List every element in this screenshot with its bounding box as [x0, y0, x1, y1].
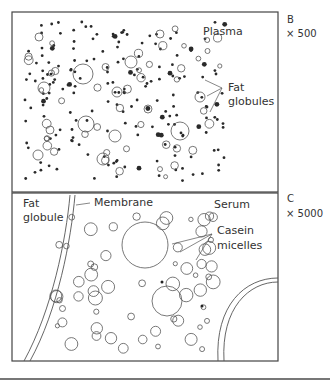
- panel-b-particles: [24, 21, 228, 182]
- casein-micelles-leaders: [172, 234, 212, 260]
- fat-globule-label-1: Fat: [23, 198, 39, 210]
- membrane-label: Membrane: [94, 197, 153, 209]
- fat-globule-right: [218, 278, 278, 361]
- casein-label-2: micelles: [217, 240, 262, 252]
- casein-label-1: Casein: [217, 225, 254, 237]
- fat-globules-label-2: globules: [228, 96, 274, 108]
- panel-c-letter: C: [287, 193, 294, 205]
- fat-globules-label-1: Fat: [228, 82, 244, 94]
- panel-b-magnification: × 500: [286, 28, 317, 40]
- membrane-leader: [76, 203, 90, 205]
- serum-label: Serum: [214, 199, 250, 211]
- panel-c-magnification: × 5000: [286, 208, 323, 220]
- panel-b-letter: B: [287, 14, 294, 26]
- panel-c-micelles: [50, 212, 220, 354]
- plasma-label: Plasma: [203, 26, 243, 38]
- milk-structure-diagram: [0, 0, 330, 384]
- fat-globule-label-2: globule: [23, 212, 64, 224]
